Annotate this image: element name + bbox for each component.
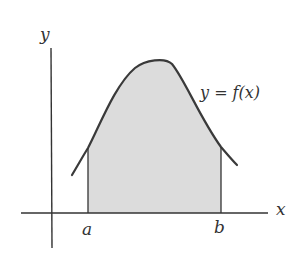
curve-label: y = f(x) [199, 83, 260, 102]
bound-a-label: a [82, 219, 92, 239]
y-axis [51, 48, 52, 248]
integral-area-diagram: y x a b y = f(x) [0, 0, 304, 257]
bound-b-label: b [214, 217, 225, 237]
y-axis-label: y [39, 24, 50, 44]
x-axis-label: x [276, 199, 286, 219]
